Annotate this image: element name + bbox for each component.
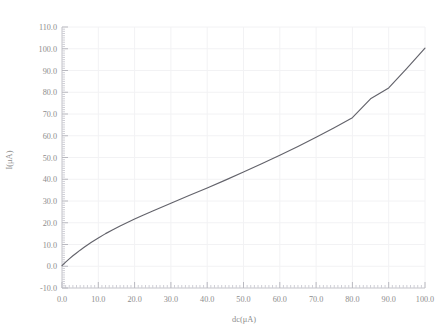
y-tick-label: 60.0 <box>43 132 57 141</box>
x-tick-label: 90.0 <box>382 295 396 304</box>
y-tick-label: 90.0 <box>43 67 57 76</box>
y-axis-title: I(μA) <box>5 150 14 169</box>
x-axis-title: dc(μA) <box>232 315 256 324</box>
x-tick-label: 10.0 <box>91 295 105 304</box>
line-chart: 0.010.020.030.040.050.060.070.080.090.01… <box>0 0 448 335</box>
y-tick-label: 70.0 <box>43 110 57 119</box>
y-tick-label: 40.0 <box>43 175 57 184</box>
x-tick-label: 30.0 <box>164 295 178 304</box>
x-tick-label: 50.0 <box>236 295 250 304</box>
y-tick-label: 100.0 <box>39 45 57 54</box>
x-axis-tick-labels: 0.010.020.030.040.050.060.070.080.090.01… <box>57 295 434 304</box>
x-tick-label: 40.0 <box>200 295 214 304</box>
y-tick-label: 50.0 <box>43 154 57 163</box>
y-tick-label: 10.0 <box>43 241 57 250</box>
x-tick-label: 80.0 <box>345 295 359 304</box>
x-tick-label: 70.0 <box>309 295 323 304</box>
y-tick-label: 30.0 <box>43 197 57 206</box>
x-tick-label: 0.0 <box>57 295 67 304</box>
y-tick-label: -10.0 <box>40 284 57 293</box>
chart-container: 0.010.020.030.040.050.060.070.080.090.01… <box>0 0 448 335</box>
y-tick-label: 80.0 <box>43 88 57 97</box>
x-tick-label: 20.0 <box>127 295 141 304</box>
y-tick-label: 20.0 <box>43 219 57 228</box>
y-tick-label: 0.0 <box>47 262 57 271</box>
y-axis-tick-labels: -10.00.010.020.030.040.050.060.070.080.0… <box>39 23 57 293</box>
gridlines <box>62 27 425 288</box>
x-tick-label: 100.0 <box>416 295 434 304</box>
x-tick-label: 60.0 <box>273 295 287 304</box>
y-tick-label: 110.0 <box>39 23 57 32</box>
